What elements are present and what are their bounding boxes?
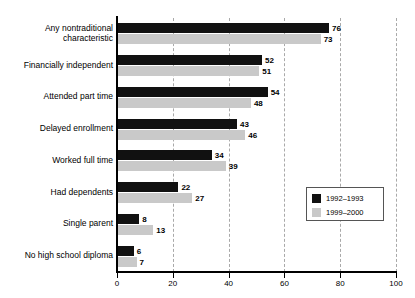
y-axis-line: [116, 16, 118, 273]
bar-value-label: 52: [265, 56, 274, 65]
bar: [117, 119, 237, 129]
bar: [117, 87, 268, 97]
category-label-line: Delayed enrollment: [0, 123, 113, 133]
category-label: Delayed enrollment: [0, 123, 113, 133]
category-label: No high school diploma: [0, 250, 113, 260]
gridline: [340, 18, 341, 272]
bar: [117, 23, 329, 33]
bar: [117, 257, 137, 267]
legend: 1992–1993 1999–2000: [306, 187, 384, 221]
bar: [117, 225, 153, 235]
x-axis-tick-label: 80: [336, 279, 345, 288]
x-axis-line: [117, 271, 397, 273]
bar-value-label: 76: [332, 24, 341, 33]
bar-chart: 76735251544843463439222781367 0204060801…: [0, 0, 415, 298]
x-axis-tick: [284, 273, 285, 278]
category-label-line: characteristic: [0, 33, 113, 43]
bar-value-label: 34: [215, 151, 224, 160]
category-label: Attended part time: [0, 91, 113, 101]
category-label: Worked full time: [0, 155, 113, 165]
bar-value-label: 7: [140, 258, 144, 267]
legend-swatch-icon: [312, 194, 321, 203]
category-label: Financially independent: [0, 60, 113, 70]
bar-value-label: 27: [195, 194, 204, 203]
x-axis-tick-label: 40: [224, 279, 233, 288]
x-axis-tick: [229, 273, 230, 278]
bar-value-label: 22: [181, 183, 190, 192]
category-label-line: Attended part time: [0, 91, 113, 101]
legend-item-label: 1999–2000: [326, 208, 364, 217]
bar: [117, 55, 262, 65]
category-label-line: Worked full time: [0, 155, 113, 165]
bar: [117, 98, 251, 108]
bar-value-label: 73: [324, 35, 333, 44]
x-axis-tick: [117, 273, 118, 278]
bar-value-label: 48: [254, 99, 263, 108]
bar-value-label: 51: [262, 67, 271, 76]
category-label-line: Had dependents: [0, 187, 113, 197]
x-axis-tick-label: 100: [389, 279, 402, 288]
bar: [117, 246, 134, 256]
bar-value-label: 54: [271, 88, 280, 97]
x-axis-tick: [340, 273, 341, 278]
category-label: Any nontraditionalcharacteristic: [0, 23, 113, 43]
bar-value-label: 8: [142, 215, 146, 224]
bar-value-label: 39: [229, 162, 238, 171]
bar: [117, 182, 178, 192]
bar: [117, 66, 259, 76]
bar: [117, 150, 212, 160]
legend-item-1999-2000[interactable]: 1999–2000: [312, 206, 378, 218]
bar-value-label: 46: [248, 131, 257, 140]
bar: [117, 193, 192, 203]
category-label-line: Financially independent: [0, 60, 113, 70]
bar-value-label: 43: [240, 120, 249, 129]
bar: [117, 214, 139, 224]
category-label: Single parent: [0, 218, 113, 228]
bar-value-label: 13: [156, 226, 165, 235]
x-axis-tick-label: 60: [280, 279, 289, 288]
gridline: [284, 18, 285, 272]
x-axis-tick-label: 20: [168, 279, 177, 288]
category-label: Had dependents: [0, 187, 113, 197]
legend-swatch-icon: [312, 208, 321, 217]
x-axis-tick: [173, 273, 174, 278]
category-label-line: No high school diploma: [0, 250, 113, 260]
bar: [117, 130, 245, 140]
legend-item-label: 1992–1993: [326, 194, 364, 203]
category-label-line: Single parent: [0, 218, 113, 228]
gridline: [396, 18, 397, 272]
x-axis-tick: [396, 273, 397, 278]
category-label-line: Any nontraditional: [0, 23, 113, 33]
bar: [117, 34, 321, 44]
plot-area: 76735251544843463439222781367: [117, 18, 396, 272]
x-axis-tick-label: 0: [115, 279, 119, 288]
legend-item-1992-1993[interactable]: 1992–1993: [312, 192, 378, 204]
bar-value-label: 6: [137, 247, 141, 256]
bar: [117, 161, 226, 171]
